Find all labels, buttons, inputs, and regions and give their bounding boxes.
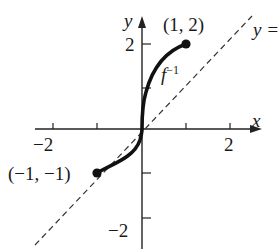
- x-tick-label-2: 2: [224, 135, 234, 154]
- point-label-neg1-neg1: (−1, −1): [8, 164, 71, 183]
- graph-canvas: [0, 0, 278, 249]
- x-axis-label: x: [252, 111, 260, 130]
- identity-line-label: y =: [253, 20, 278, 39]
- curve-label-exponent: −1: [166, 63, 179, 77]
- curve-label-f-inverse: f−1: [161, 64, 179, 84]
- x-tick-label-neg2: −2: [33, 135, 53, 154]
- point-label-1-2: (1, 2): [163, 15, 204, 34]
- y-axis-arrow-icon: [138, 16, 146, 28]
- point-neg1-neg1: [92, 168, 101, 177]
- y-tick-label-neg2: −2: [108, 221, 128, 240]
- y-tick-label-2: 2: [125, 35, 135, 54]
- point-1-2: [181, 39, 190, 48]
- y-axis-label: y: [124, 11, 132, 30]
